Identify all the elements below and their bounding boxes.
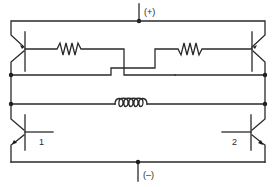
negative-terminal: (–) [136,160,154,181]
transistor-2: 2 [222,104,265,162]
inductor-center [9,75,267,107]
transistor-1-label: 1 [39,137,44,147]
resistor-right [11,43,252,75]
resistor-left [25,43,175,75]
circuit-diagram: (+) 1 [0,0,276,187]
positive-terminal-label: (+) [144,7,155,17]
transistor-top-right [252,32,265,75]
transistor-2-label: 2 [232,137,237,147]
transistor-1: 1 [11,104,53,162]
positive-terminal: (+) [137,4,155,23]
top-rail [11,21,265,47]
transistor-top-left [11,32,25,75]
negative-terminal-label: (–) [143,170,154,180]
